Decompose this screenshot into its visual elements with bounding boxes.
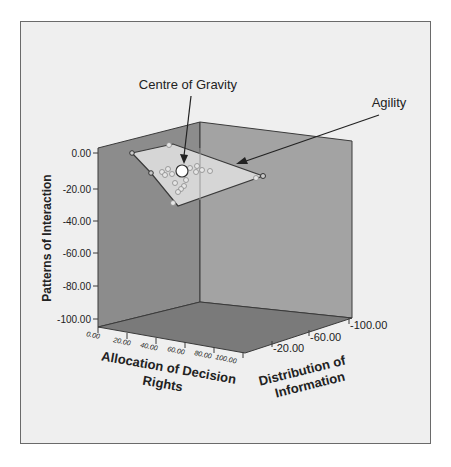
x-tick-3: 60.00: [167, 345, 186, 356]
right-back-wall: [200, 122, 352, 318]
chart-3d: 0.00 -20.00 -40.00 -60.00 -80.00 -100.00…: [0, 0, 451, 467]
y-tick-5: -100.00: [57, 314, 91, 325]
y-axis-label: Patterns of Interaction: [40, 174, 54, 301]
y-tick-4: -80.00: [63, 281, 92, 292]
y-tick-0: 0.00: [72, 148, 92, 159]
annotation-centre-of-gravity: Centre of Gravity: [139, 77, 238, 92]
y-tick-3: -60.00: [63, 248, 92, 259]
x-tick-5: 100.00: [215, 353, 238, 364]
y-axis: [93, 153, 98, 319]
z-tick-2: -100.00: [350, 319, 387, 331]
z-tick-0: -20.00: [273, 342, 304, 354]
x-tick-1: 20.00: [112, 336, 132, 347]
y-tick-2: -40.00: [63, 216, 92, 227]
z-tick-1: -60.00: [310, 331, 341, 343]
annotation-agility: Agility: [372, 95, 407, 110]
x-tick-0: 0.00: [86, 330, 101, 340]
x-tick-4: 80.00: [194, 349, 213, 360]
y-tick-1: -20.00: [63, 184, 92, 195]
centre-of-gravity-point: [176, 165, 188, 177]
